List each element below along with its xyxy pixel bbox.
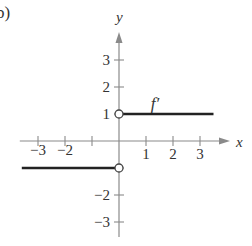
open-circle-upper-icon <box>115 110 123 118</box>
x-tick-label: −3 <box>30 142 46 158</box>
x-axis-arrow-icon <box>219 138 230 145</box>
x-tick-label: 2 <box>169 146 177 162</box>
y-axis-arrow-icon <box>116 32 123 43</box>
x-tick-label: −2 <box>57 142 73 158</box>
axes <box>20 32 230 237</box>
curve-label-f-prime: f′ <box>151 94 160 113</box>
x-tick-label: 1 <box>142 146 150 162</box>
y-axis-label: y <box>114 9 123 25</box>
open-circle-lower-icon <box>115 164 123 172</box>
panel-label: b) <box>0 3 10 22</box>
piecewise-derivative-plot: b) −3−2123−3−2123 x y f′ <box>0 0 252 246</box>
y-tick-label: 1 <box>103 106 111 122</box>
y-tick-label: −2 <box>94 187 110 203</box>
y-tick-label: 2 <box>103 79 111 95</box>
x-tick-label: 3 <box>196 146 204 162</box>
x-axis-label: x <box>235 134 243 150</box>
y-tick-label: −3 <box>94 214 110 230</box>
y-tick-label: 3 <box>103 52 111 68</box>
